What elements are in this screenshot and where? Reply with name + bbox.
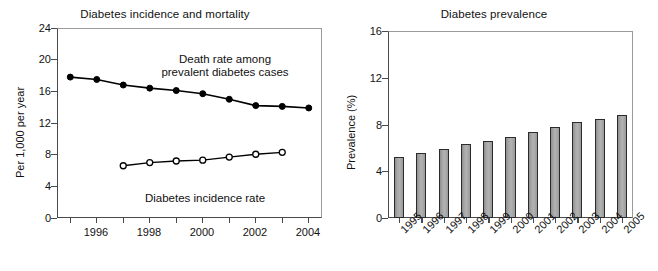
death-rate-point <box>120 82 126 88</box>
annotation-death-rate: Death rate among prevalent diabetes case… <box>140 53 310 79</box>
y-tick-label-right-12: 12 <box>358 72 382 84</box>
death-rate-point <box>94 76 100 82</box>
incidence-rate-point <box>200 157 206 163</box>
bar-2004 <box>595 119 605 218</box>
bar-1998 <box>461 144 471 218</box>
y-tick-mark-right <box>382 125 388 126</box>
x-tick-mark-right <box>466 218 467 223</box>
annotation-death-rate-line1: Death rate among <box>140 53 310 66</box>
annotation-incidence-rate: Diabetes incidence rate <box>120 192 290 205</box>
y-tick-mark-right <box>382 218 388 219</box>
incidence-rate-markers <box>120 149 285 168</box>
incidence-rate-point <box>253 151 259 157</box>
incidence-rate-point <box>226 154 232 160</box>
chart-panel-prevalence: Diabetes prevalence Prevalence (%) 0 4 8… <box>330 0 658 271</box>
bar-1995 <box>394 157 404 218</box>
death-rate-point <box>279 103 285 109</box>
y-tick-label-right-0: 0 <box>358 212 382 224</box>
death-rate-line <box>70 77 309 108</box>
x-tick-mark-right <box>600 218 601 223</box>
y-axis-label-right: Prevalence (%) <box>345 95 357 170</box>
bar-2000 <box>505 137 515 218</box>
bar-2001 <box>528 132 538 218</box>
chart-panel-incidence-mortality: Diabetes incidence and mortality Per 1,0… <box>0 0 330 271</box>
y-tick-mark-right <box>382 31 388 32</box>
x-tick-mark-right <box>577 218 578 223</box>
x-tick-mark-right <box>399 218 400 223</box>
death-rate-point <box>200 91 206 97</box>
y-tick-label-right-4: 4 <box>358 165 382 177</box>
bar-2002 <box>550 127 560 218</box>
death-rate-point <box>67 74 73 80</box>
incidence-rate-point <box>120 163 126 169</box>
bar-2005 <box>617 115 627 218</box>
y-tick-label-right-16: 16 <box>358 25 382 37</box>
x-tick-mark-right <box>421 218 422 223</box>
bar-1999 <box>483 141 493 218</box>
incidence-rate-point <box>147 160 153 166</box>
incidence-rate-point <box>173 158 179 164</box>
death-rate-point <box>253 103 259 109</box>
line-series-overlay <box>0 0 330 271</box>
death-rate-point <box>306 105 312 111</box>
x-tick-mark-right <box>555 218 556 223</box>
bar-1997 <box>439 149 449 218</box>
x-tick-mark-right <box>444 218 445 223</box>
y-tick-mark-right <box>382 171 388 172</box>
death-rate-point <box>173 88 179 94</box>
figure-container: Diabetes incidence and mortality Per 1,0… <box>0 0 658 271</box>
y-tick-label-right-8: 8 <box>358 119 382 131</box>
death-rate-point <box>226 96 232 102</box>
annotation-death-rate-line2: prevalent diabetes cases <box>140 66 310 79</box>
chart-title-right: Diabetes prevalence <box>330 8 658 20</box>
bar-1996 <box>416 153 426 218</box>
incidence-rate-point <box>279 149 285 155</box>
x-tick-mark-right <box>533 218 534 223</box>
x-tick-mark-right <box>488 218 489 223</box>
bar-2003 <box>572 122 582 218</box>
x-tick-mark-right <box>622 218 623 223</box>
y-tick-mark-right <box>382 78 388 79</box>
x-tick-mark-right <box>511 218 512 223</box>
death-rate-point <box>147 85 153 91</box>
